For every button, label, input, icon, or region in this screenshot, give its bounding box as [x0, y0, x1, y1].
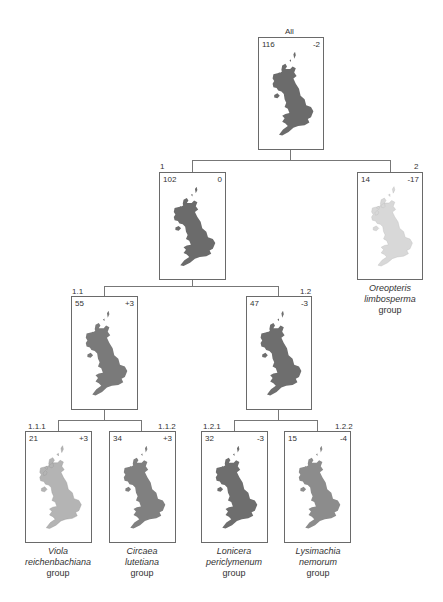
node-delta: -4: [340, 434, 347, 443]
node-count: 102: [163, 175, 176, 184]
node-id-label: 1.1.1: [28, 422, 46, 431]
group-caption: Lonicera periclymenum group: [186, 546, 282, 579]
node-1-2-2: 15 -4: [284, 431, 351, 543]
node-2: 14 -17: [357, 172, 423, 280]
connector: [278, 286, 279, 296]
node-1-1: 55 +3: [71, 296, 138, 410]
node-delta: -3: [301, 299, 308, 308]
node-delta: -17: [407, 175, 419, 184]
node-id-label: 1.2.1: [203, 422, 221, 431]
node-count: 116: [262, 40, 275, 49]
group-word: group: [8, 568, 108, 579]
node-count: 55: [75, 299, 84, 308]
node-id-label: 1.2: [300, 287, 311, 296]
node-delta: +3: [79, 434, 88, 443]
distribution-map: [206, 444, 263, 538]
node-count: 15: [288, 434, 297, 443]
node-delta: -2: [313, 40, 320, 49]
group-word: group: [272, 568, 364, 579]
distribution-map: [263, 50, 319, 145]
genus-name: Circaea: [126, 546, 157, 556]
connector: [234, 420, 318, 421]
connector: [104, 286, 105, 296]
species-name: reichenbachiana: [25, 557, 91, 567]
node-delta: +3: [125, 299, 134, 308]
node-delta: -3: [257, 434, 264, 443]
node-id-label: 1.1.2: [158, 422, 176, 431]
node-id-label: All: [285, 27, 294, 36]
node-1-2-1: 32 -3: [201, 431, 268, 543]
genus-name: Lonicera: [217, 546, 252, 556]
connector: [58, 420, 59, 431]
node-1-1-1: 21 +3: [25, 431, 92, 543]
species-name: nemorum: [299, 557, 337, 567]
genus-name: Lysimachia: [296, 546, 341, 556]
distribution-map: [114, 444, 171, 538]
node-all: 116 -2: [258, 37, 324, 150]
connector: [390, 160, 391, 172]
distribution-map: [30, 444, 87, 538]
node-delta: 0: [218, 175, 222, 184]
node-count: 47: [250, 299, 259, 308]
node-id-label: 1: [160, 162, 164, 171]
node-count: 32: [205, 434, 214, 443]
connector: [141, 420, 142, 431]
group-word: group: [97, 568, 187, 579]
species-name: lutetiana: [125, 557, 159, 567]
connector: [58, 420, 142, 421]
connector: [234, 420, 235, 431]
connector: [104, 286, 279, 287]
group-caption: Oreopteris limbosperma group: [345, 283, 435, 316]
genus-name: Viola: [48, 546, 68, 556]
distribution-map: [251, 309, 307, 405]
group-word: group: [186, 568, 282, 579]
distribution-map: [289, 444, 346, 538]
group-caption: Viola reichenbachiana group: [8, 546, 108, 579]
genus-name: Oreopteris: [369, 283, 411, 293]
node-id-label: 1.2.2: [335, 422, 353, 431]
group-word: group: [345, 305, 435, 316]
node-count: 34: [113, 434, 122, 443]
node-id-label: 1.1: [72, 287, 83, 296]
node-id-label: 2: [414, 162, 418, 171]
distribution-map: [76, 309, 133, 405]
node-1: 102 0: [159, 172, 226, 280]
node-delta: +3: [163, 434, 172, 443]
group-caption: Circaea lutetiana group: [97, 546, 187, 579]
node-count: 21: [29, 434, 38, 443]
species-name: periclymenum: [206, 557, 262, 567]
distribution-map: [362, 185, 418, 275]
group-caption: Lysimachia nemorum group: [272, 546, 364, 579]
node-count: 14: [361, 175, 370, 184]
species-name: limbosperma: [364, 294, 416, 304]
distribution-map: [164, 185, 221, 275]
node-1-1-2: 34 +3: [109, 431, 176, 543]
node-1-2: 47 -3: [246, 296, 312, 410]
connector: [192, 160, 193, 172]
connector: [192, 160, 391, 161]
connector: [317, 420, 318, 431]
